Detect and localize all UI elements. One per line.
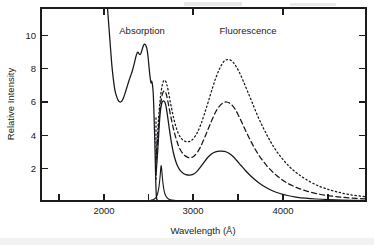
y-tick-label-6: 6 [31, 96, 36, 107]
y-axis-tick-labels: 10 8 6 4 2 [25, 30, 36, 174]
curve-fluorescence-solid [156, 101, 365, 201]
absorption-label: Absorption [119, 25, 164, 36]
x-axis-title: Wavelength (Å) [170, 225, 235, 236]
y-tick-label-2: 2 [31, 163, 36, 174]
x-axis-tick-labels: 2000 3000 4000 [93, 205, 293, 216]
y-tick-label-8: 8 [31, 63, 36, 74]
y-axis-ticks [41, 35, 366, 168]
y-tick-label-4: 4 [31, 130, 36, 141]
x-tick-label-3000: 3000 [182, 205, 203, 216]
curve-fluorescence-dotted [156, 59, 365, 196]
spectrum-chart: 10 8 6 4 2 2000 3000 4000 Wavelength (Å) [0, 0, 374, 245]
y-tick-label-10: 10 [25, 30, 36, 41]
figure-container: 10 8 6 4 2 2000 3000 4000 Wavelength (Å) [0, 0, 374, 245]
x-tick-label-4000: 4000 [272, 205, 293, 216]
curve-absorption [108, 8, 158, 200]
plot-frame [41, 8, 366, 201]
y-axis-title: Relative Intensity [5, 68, 16, 141]
fluorescence-label: Fluorescence [219, 25, 276, 36]
x-tick-label-2000: 2000 [93, 205, 114, 216]
curve-layer [108, 8, 366, 201]
x-axis-ticks [59, 8, 328, 201]
curve-fluorescence-dashed [156, 91, 365, 199]
